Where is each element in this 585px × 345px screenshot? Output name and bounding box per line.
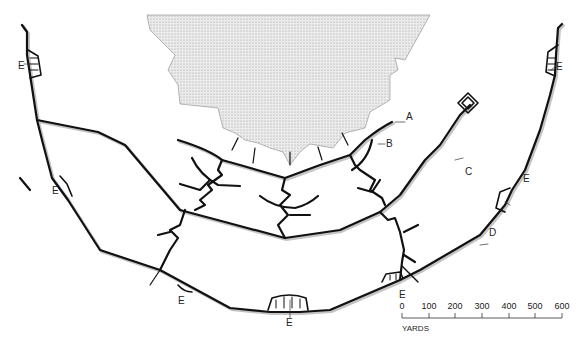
label-b: B — [386, 139, 393, 149]
label-e-lowleft: E — [178, 296, 185, 306]
scale-tick-500: 500 — [527, 302, 542, 311]
scale-bar — [402, 313, 562, 318]
label-e-topleft: E — [18, 61, 25, 71]
label-e-lowright: E — [399, 290, 406, 300]
scale-unit: YARDS — [402, 324, 429, 333]
trench-diagram — [0, 0, 585, 345]
label-d: D — [489, 228, 496, 238]
strongpoint-e-bottom — [268, 295, 308, 310]
scale-tick-0: 0 — [399, 302, 404, 311]
label-e-topright: E — [556, 62, 563, 72]
label-e-bottom: E — [286, 318, 293, 328]
scale-tick-200: 200 — [447, 302, 462, 311]
scale-tick-100: 100 — [421, 302, 436, 311]
scale-tick-400: 400 — [501, 302, 516, 311]
label-a: A — [406, 112, 413, 122]
scale-tick-600: 600 — [554, 302, 569, 311]
label-e-left: E — [52, 186, 59, 196]
label-e-right: E — [523, 174, 530, 184]
scale-tick-300: 300 — [474, 302, 489, 311]
label-c: C — [465, 167, 472, 177]
